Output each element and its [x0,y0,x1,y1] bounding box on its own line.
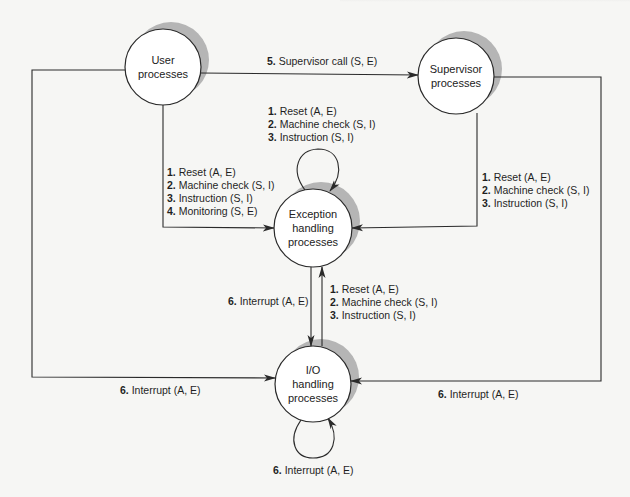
exception-node-label-line1: Exception [268,207,358,221]
label-num: 2. [167,179,176,191]
exception-node-label: Exception handling processes [268,207,358,249]
label-num: 2. [482,184,491,196]
edge-user-to-supervisor [201,73,418,75]
io-node-label-line3: processes [268,391,358,405]
io-node-label: I/O handling processes [268,363,358,405]
label-supervisor-call: 5. Supervisor call (S, E) [267,55,377,68]
io-node-label-line2: handling [268,377,358,391]
io-node-label-line1: I/O [268,363,358,377]
label-user-to-exception: 1. Reset (A, E) 2. Machine check (S, I) … [167,166,274,218]
supervisor-node-label-line1: Supervisor [411,62,501,76]
label-io-self-loop: 6. Interrupt (A, E) [273,464,354,477]
edge-io-self-loop [294,418,334,458]
label-num: 1. [268,105,277,117]
label-text: Instruction (S, I) [277,131,354,143]
supervisor-node-label: Supervisor processes [411,62,501,90]
label-text: Machine check (S, I) [339,296,438,308]
supervisor-node-label-line2: processes [411,76,501,90]
label-io-to-exception: 1. Reset (A, E) 2. Machine check (S, I) … [330,283,437,322]
label-text: Machine check (S, I) [176,179,275,191]
label-user-to-io: 6. Interrupt (A, E) [120,384,201,397]
user-node-label-line1: User [118,53,208,67]
label-text: Instruction (S, I) [491,197,568,209]
label-num: 3. [482,197,491,209]
label-text: Interrupt (A, E) [282,464,354,476]
label-num: 1. [330,283,339,295]
edge-user-to-io [32,70,275,378]
exception-node-label-line2: handling [268,221,358,235]
label-text: Interrupt (A, E) [129,384,201,396]
label-text: Reset (A, E) [176,166,236,178]
label-text: Interrupt (A, E) [447,388,519,400]
label-num: 3. [268,131,277,143]
label-num: 4. [167,205,176,217]
label-num: 1. [167,166,176,178]
label-num: 6. [438,388,447,400]
label-supervisor-to-io: 6. Interrupt (A, E) [438,388,519,401]
label-num: 6. [273,464,282,476]
label-text: Instruction (S, I) [339,309,416,321]
label-exception-to-io: 6. Interrupt (A, E) [228,295,309,308]
edge-supervisor-to-io [351,77,601,381]
user-node-label: User processes [118,53,208,81]
label-text: Interrupt (A, E) [237,295,309,307]
exception-node-label-line3: processes [268,235,358,249]
label-num: 6. [120,384,129,396]
label-text: Machine check (S, I) [277,118,376,130]
label-num: 2. [330,296,339,308]
label-text: Reset (A, E) [339,283,399,295]
label-text: Supervisor call (S, E) [276,55,378,67]
label-num: 3. [330,309,339,321]
label-text: Reset (A, E) [491,171,551,183]
label-text: Instruction (S, I) [176,192,253,204]
label-text: Reset (A, E) [277,105,337,117]
label-text: Monitoring (S, E) [176,205,258,217]
label-supervisor-to-exception: 1. Reset (A, E) 2. Machine check (S, I) … [482,171,589,210]
label-num: 1. [482,171,491,183]
label-num: 5. [267,55,276,67]
label-text: Machine check (S, I) [491,184,590,196]
label-num: 6. [228,295,237,307]
label-num: 2. [268,118,277,130]
user-node-label-line2: processes [118,67,208,81]
label-exception-self-loop: 1. Reset (A, E) 2. Machine check (S, I) … [268,105,375,144]
label-num: 3. [167,192,176,204]
